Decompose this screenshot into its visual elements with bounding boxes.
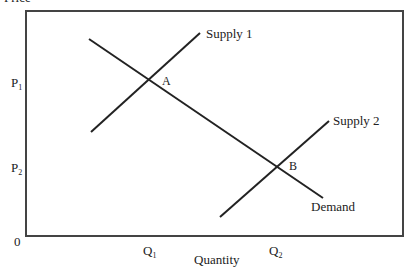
supply-demand-diagram: Price Supply 1 Supply 2 Demand A B P1 P2… [0, 0, 410, 271]
demand-curve [89, 39, 323, 198]
demand-label: Demand [311, 199, 356, 214]
quantity-tick-q2: Q2 [269, 243, 282, 260]
point-a-label: A [162, 74, 171, 88]
point-b-label: B [289, 159, 297, 173]
price-tick-p1: P1 [11, 75, 22, 92]
supply-2-label: Supply 2 [333, 113, 380, 128]
price-tick-p2: P2 [11, 160, 22, 177]
supply-1-curve [91, 33, 200, 132]
y-axis-label: Price [4, 0, 31, 5]
origin-label: 0 [14, 234, 21, 249]
quantity-tick-q1: Q1 [143, 243, 156, 260]
x-axis-label: Quantity [194, 252, 240, 267]
supply-1-label: Supply 1 [206, 26, 253, 41]
